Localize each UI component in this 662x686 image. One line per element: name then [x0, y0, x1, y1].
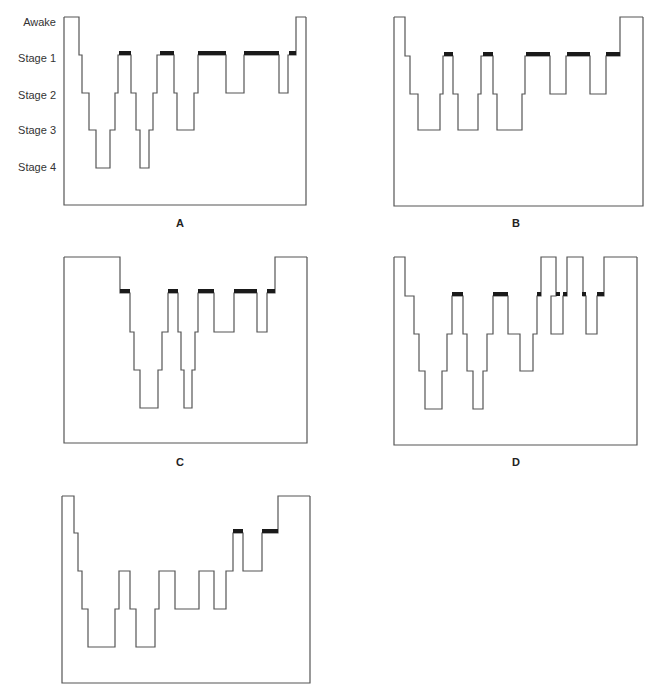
rem-period-bar	[168, 289, 178, 293]
hypnogram-panel-a	[64, 17, 306, 205]
sleep-stage-trace	[62, 496, 310, 647]
panel-frame	[64, 17, 306, 205]
rem-period-bar	[537, 292, 541, 296]
rem-period-bar	[556, 292, 560, 296]
rem-period-bar	[563, 292, 567, 296]
panel-frame	[64, 257, 307, 443]
rem-period-bar	[262, 529, 278, 533]
rem-period-bar	[452, 292, 463, 296]
hypnogram-panel-e	[62, 496, 310, 683]
hypnogram-figure: Awake Stage 1 Stage 2 Stage 3 Stage 4 A …	[0, 0, 662, 686]
rem-period-bar	[120, 289, 130, 293]
rem-period-bar	[289, 51, 296, 55]
panel-frame	[394, 257, 637, 445]
sleep-stage-trace	[394, 257, 637, 409]
rem-period-bar	[198, 289, 214, 293]
rem-period-bar	[119, 51, 131, 55]
sleep-stage-trace	[64, 257, 307, 408]
hypnogram-panel-b	[394, 17, 643, 206]
sleep-stage-trace	[64, 17, 306, 168]
rem-period-bar	[567, 52, 590, 56]
panel-frame	[394, 17, 643, 206]
panel-label-a: A	[170, 217, 190, 229]
rem-period-bar	[267, 289, 275, 293]
rem-period-bar	[444, 52, 453, 56]
rem-period-bar	[582, 292, 586, 296]
hypnogram-plots	[0, 0, 662, 686]
rem-period-bar	[483, 52, 493, 56]
rem-period-bar	[244, 51, 279, 55]
rem-period-bar	[493, 292, 508, 296]
hypnogram-panel-d	[394, 257, 637, 445]
rem-period-bar	[606, 52, 620, 56]
panel-label-c: C	[170, 456, 190, 468]
rem-period-bar	[597, 292, 604, 296]
rem-period-bar	[198, 51, 226, 55]
hypnogram-panel-c	[64, 257, 307, 443]
rem-period-bar	[160, 51, 174, 55]
sleep-stage-trace	[394, 17, 643, 130]
rem-period-bar	[234, 289, 257, 293]
panel-label-b: B	[506, 217, 526, 229]
panel-label-d: D	[506, 456, 526, 468]
rem-period-bar	[526, 52, 550, 56]
rem-period-bar	[233, 529, 243, 533]
panel-frame	[62, 496, 310, 683]
